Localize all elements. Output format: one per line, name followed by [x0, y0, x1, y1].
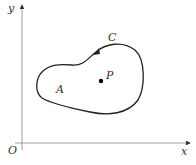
- y-axis-label: y: [7, 2, 15, 15]
- diagram-canvas: y x O C A P: [0, 0, 196, 165]
- region-label: A: [55, 83, 64, 96]
- curve-label: C: [108, 31, 117, 44]
- point-p: [99, 79, 103, 83]
- closed-curve-c: [37, 44, 144, 114]
- x-axis-label: x: [181, 145, 188, 158]
- curve-direction-arrow-icon: [93, 48, 100, 55]
- origin-label: O: [8, 144, 17, 157]
- point-label: P: [105, 69, 114, 82]
